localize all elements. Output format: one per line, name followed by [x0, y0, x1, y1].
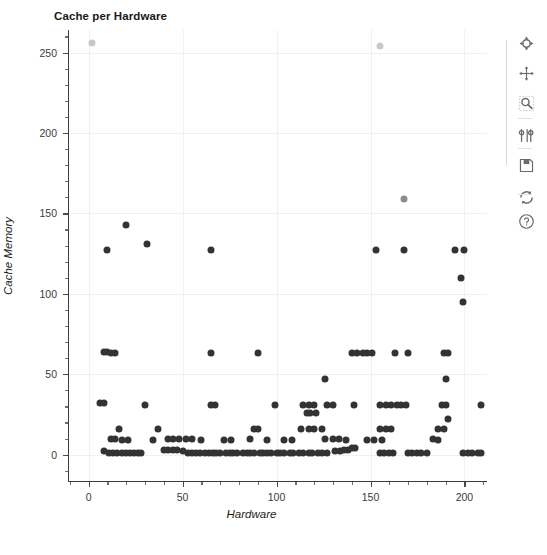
y-axis-label: Cache Memory [2, 217, 14, 295]
scatter-point [143, 240, 150, 247]
help-icon[interactable] [513, 208, 539, 234]
x-axis-ticks: Hardware 050100150200 [0, 482, 503, 542]
scatter-point [297, 425, 304, 432]
save-icon[interactable] [513, 152, 539, 178]
pan-icon[interactable] [513, 60, 539, 86]
y-tick-label: 250 [39, 47, 57, 59]
x-tick-minor [164, 482, 165, 485]
zoom-rect-icon[interactable] [513, 90, 539, 116]
x-tick-minor [483, 482, 484, 485]
x-tick-minor [239, 482, 240, 485]
scatter-point [350, 401, 357, 408]
scatter-point [478, 450, 485, 457]
scatter-point [115, 425, 122, 432]
x-tick-label: 150 [362, 491, 380, 503]
toolbar-separator [518, 148, 532, 149]
scatter-point [104, 247, 111, 254]
scatter-point [405, 350, 412, 357]
y-tick-minor [65, 36, 68, 37]
y-tick-minor [65, 101, 68, 102]
x-tick-minor [295, 482, 296, 485]
x-tick-minor [314, 482, 315, 485]
gridline-horizontal [68, 213, 487, 214]
scatter-point [369, 350, 376, 357]
scatter-point [478, 401, 485, 408]
matplotlib-figure: Cache per Hardware 050100150200250 Hardw… [0, 0, 503, 555]
scatter-point [175, 435, 182, 442]
scatter-point [435, 437, 442, 444]
scatter-point [271, 401, 278, 408]
scatter-point [373, 247, 380, 254]
scatter-point [220, 437, 227, 444]
refresh-icon[interactable] [513, 184, 539, 210]
scatter-point [442, 376, 449, 383]
y-tick-label: 150 [39, 207, 57, 219]
y-tick-minor [65, 117, 68, 118]
scatter-point [352, 445, 359, 452]
x-tick-major [371, 482, 372, 487]
gridline-horizontal [68, 374, 487, 375]
x-tick-minor [427, 482, 428, 485]
y-tick-minor [65, 471, 68, 472]
y-tick-label: 0 [51, 449, 57, 461]
scatter-point [207, 247, 214, 254]
x-tick-major [277, 482, 278, 487]
y-tick-minor [65, 439, 68, 440]
gridline-horizontal [68, 294, 487, 295]
y-tick-minor [65, 342, 68, 343]
scatter-point [89, 39, 96, 46]
gridline-horizontal [68, 133, 487, 134]
scatter-point [311, 425, 318, 432]
y-tick-major [63, 455, 68, 456]
x-tick-label: 50 [177, 491, 189, 503]
scatter-point [247, 435, 254, 442]
y-tick-label: 100 [39, 288, 57, 300]
figure-window: Cache per Hardware 050100150200250 Hardw… [0, 0, 547, 555]
x-tick-minor [333, 482, 334, 485]
scatter-point [376, 43, 383, 50]
scatter-point [440, 425, 447, 432]
scatter-point [149, 437, 156, 444]
scatter-point [189, 435, 196, 442]
scatter-point [125, 437, 132, 444]
scatter-point [363, 437, 370, 444]
gridline-horizontal [68, 53, 487, 54]
gridline-vertical [464, 30, 465, 482]
y-tick-minor [65, 262, 68, 263]
y-tick-minor [65, 310, 68, 311]
y-tick-major [63, 133, 68, 134]
x-tick-major [464, 482, 465, 487]
scatter-point [228, 437, 235, 444]
scatter-point [403, 401, 410, 408]
scatter-point [123, 221, 130, 228]
y-tick-major [63, 53, 68, 54]
subplot-config-icon[interactable] [513, 122, 539, 148]
scatter-point [452, 247, 459, 254]
y-tick-minor [65, 197, 68, 198]
plot-area[interactable] [68, 30, 487, 482]
home-icon[interactable] [513, 30, 539, 56]
y-tick-minor [65, 181, 68, 182]
page-title: Cache per Hardware [54, 10, 167, 22]
scatter-point [198, 437, 205, 444]
scatter-point [423, 450, 430, 457]
y-tick-minor [65, 278, 68, 279]
scatter-point [401, 195, 408, 202]
x-tick-label: 200 [456, 491, 474, 503]
x-tick-label: 0 [86, 491, 92, 503]
scatter-point [207, 350, 214, 357]
scatter-point [322, 376, 329, 383]
scatter-point [313, 409, 320, 416]
scatter-point [329, 401, 336, 408]
y-tick-minor [65, 358, 68, 359]
y-tick-minor [65, 149, 68, 150]
x-tick-minor [389, 482, 390, 485]
toolbar-separator [518, 194, 532, 195]
scatter-point [155, 425, 162, 432]
x-tick-minor [258, 482, 259, 485]
x-axis-label: Hardware [0, 508, 503, 520]
scatter-point [459, 298, 466, 305]
y-tick-label: 200 [39, 127, 57, 139]
scatter-point [401, 247, 408, 254]
y-tick-minor [65, 165, 68, 166]
